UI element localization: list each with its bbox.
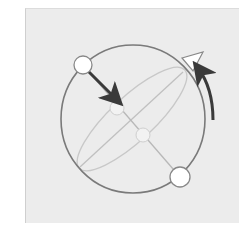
inner-node-upper bbox=[110, 101, 124, 115]
node-bottom-right bbox=[170, 167, 190, 187]
rotation-axis-line bbox=[80, 72, 183, 167]
straight-arrow-icon bbox=[85, 68, 117, 100]
node-top-left bbox=[74, 56, 92, 74]
inner-node-lower bbox=[136, 128, 150, 142]
sphere-diagram bbox=[0, 0, 246, 230]
